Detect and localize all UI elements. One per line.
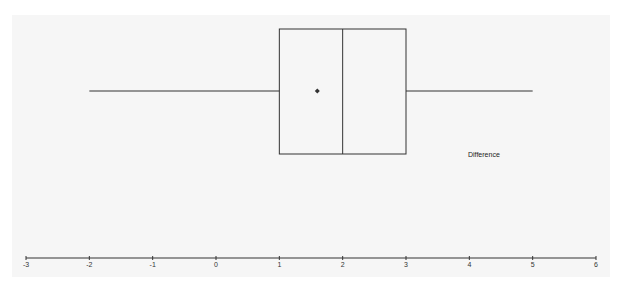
- tick-label: 3: [404, 261, 408, 268]
- tick-label: 6: [594, 261, 598, 268]
- tick-label: -1: [150, 261, 156, 268]
- series-label: Difference: [468, 151, 500, 158]
- tick-label: -3: [23, 261, 29, 268]
- tick-label: 5: [531, 261, 535, 268]
- mean-marker: [315, 89, 320, 94]
- x-axis: -3-2-10123456: [23, 256, 598, 268]
- tick-label: -2: [86, 261, 92, 268]
- tick-label: 0: [214, 261, 218, 268]
- boxplot-chart: -3-2-10123456 Difference: [0, 0, 618, 290]
- tick-label: 1: [277, 261, 281, 268]
- tick-label: 4: [467, 261, 471, 268]
- box-plot: [89, 29, 532, 154]
- tick-label: 2: [341, 261, 345, 268]
